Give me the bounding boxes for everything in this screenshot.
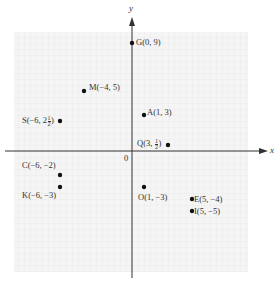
x-axis-arrow-icon xyxy=(259,148,268,154)
point-M xyxy=(82,89,86,93)
point-Q xyxy=(166,143,170,147)
y-axis-arrow-icon xyxy=(129,17,135,26)
point-S xyxy=(58,119,62,123)
point-label-G: G(0, 9) xyxy=(136,37,161,47)
point-label-O: O(1, −3) xyxy=(138,192,167,202)
point-label-A: A(1, 3) xyxy=(147,107,172,117)
point-O xyxy=(142,185,146,189)
point-label-S-prefix: S(−6, 2 xyxy=(22,115,47,125)
point-label-Q-suffix: ) xyxy=(158,138,161,148)
point-label-Q-prefix: Q(3, xyxy=(137,138,154,148)
x-axis-label: x xyxy=(270,145,274,155)
point-G xyxy=(130,41,134,45)
point-label-M: M(−4, 5) xyxy=(89,82,120,92)
point-label-C: C(−6, −2) xyxy=(22,160,56,170)
point-label-I: I(5, −5) xyxy=(194,206,220,216)
point-label-S-suffix: ) xyxy=(51,115,54,125)
y-axis-label: y xyxy=(129,3,133,13)
point-C xyxy=(58,173,62,177)
point-label-K: K(−6, −3) xyxy=(22,190,56,200)
origin-label: 0 xyxy=(124,153,128,163)
point-A xyxy=(142,113,146,117)
grid-area xyxy=(14,32,248,272)
point-K xyxy=(58,185,62,189)
point-label-S: S(−6, 212) xyxy=(22,115,54,127)
point-label-Q: Q(3, 12) xyxy=(137,138,161,150)
point-label-E: E(5, −4) xyxy=(194,194,222,204)
